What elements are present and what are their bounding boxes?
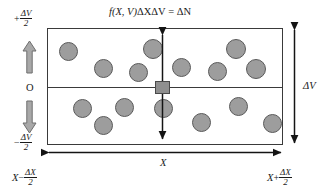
fraction-delta-v-over-2: ΔV2 — [20, 133, 33, 153]
formula-equals: = — [168, 6, 174, 17]
label-x-plus-half-delta-x: X+ΔX2 — [267, 168, 292, 188]
label-x-span: X — [160, 158, 166, 169]
particle — [172, 58, 191, 77]
title-formula: f(X, V)ΔXΔV = ΔN — [109, 7, 191, 18]
label-delta-v-span: ΔV — [303, 81, 316, 92]
formula-term-dxdv: ΔXΔV — [137, 6, 166, 17]
particle — [94, 116, 113, 135]
particle — [192, 113, 211, 132]
particle — [143, 39, 163, 59]
axis-label-plus-half-delta-v: +ΔV2 — [14, 9, 32, 29]
particle — [154, 99, 173, 118]
fraction-delta-x-over-2: ΔX2 — [279, 168, 292, 188]
formula-arguments: (X, V) — [112, 6, 137, 17]
particle — [208, 62, 227, 81]
particle — [263, 114, 282, 133]
particle — [246, 59, 266, 79]
axis-label-origin: O — [26, 83, 34, 94]
sample-cell-square — [155, 81, 170, 94]
downward-velocity-block-arrow — [22, 100, 37, 134]
particle — [59, 42, 78, 61]
fraction-delta-x-over-2: ΔX2 — [24, 168, 37, 188]
particle — [229, 97, 248, 116]
label-x-minus-half-delta-x: X−ΔX2 — [12, 168, 37, 188]
particle — [129, 63, 148, 82]
phase-space-cell-figure: f(X, V)ΔXΔV = ΔN — [0, 0, 327, 193]
particle — [115, 98, 134, 117]
fraction-delta-v-over-2: ΔV2 — [20, 9, 33, 29]
axis-label-minus-half-delta-v: −ΔV2 — [14, 133, 32, 153]
particle — [226, 39, 246, 59]
particle — [73, 99, 92, 118]
upward-velocity-block-arrow — [22, 40, 37, 74]
formula-result: ΔN — [177, 6, 191, 17]
particle — [94, 59, 113, 78]
